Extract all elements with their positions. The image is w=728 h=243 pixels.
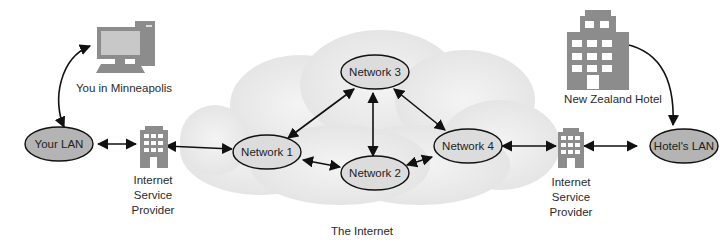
network3-label: Network 3 (349, 66, 401, 78)
network4-label: Network 4 (442, 140, 494, 152)
isp-building-icon-right (558, 128, 584, 168)
isp-building-icon-left (140, 126, 168, 168)
hotel-building-icon (567, 10, 629, 90)
isp-right-label: Internet Service Provider (550, 175, 593, 220)
hotels-lan-label: Hotel's LAN (654, 140, 714, 152)
network2-label: Network 2 (349, 167, 401, 179)
isp-left-label: Internet Service Provider (132, 173, 175, 218)
hotel-label: New Zealand Hotel (564, 92, 662, 107)
computer-label: You in Minneapolis (76, 81, 172, 96)
desktop-computer-icon (96, 21, 155, 73)
internet-routing-diagram: Your LAN Hotel's LAN Network 1 Network 3… (0, 0, 728, 243)
your-lan-label: Your LAN (35, 138, 84, 150)
internet-label: The Internet (331, 224, 393, 239)
diagram-canvas (0, 0, 728, 243)
network1-label: Network 1 (241, 146, 293, 158)
